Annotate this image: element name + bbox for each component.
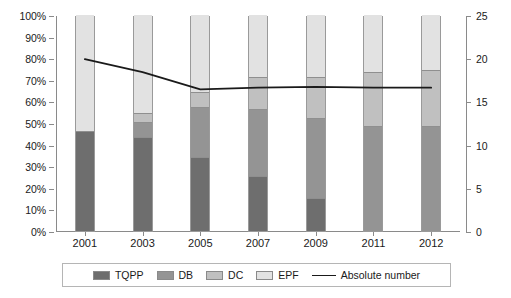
bar-segment-db[interactable] [134,123,152,138]
right-axis-tick-label: 15 [476,96,488,108]
legend-item-epf[interactable]: EPF [256,269,298,281]
bar-segment-db[interactable] [191,108,209,158]
bar-stack[interactable] [306,16,326,232]
bar-stack[interactable] [133,16,153,232]
bar-segment-dc[interactable] [134,114,152,123]
legend-swatch-icon [93,271,110,280]
left-axis-tick-mark [49,102,54,103]
bar-segment-db[interactable] [422,127,440,231]
right-axis-tick-mark [466,102,471,103]
left-axis-tick-label: 100% [20,10,46,22]
right-axis-tick-label: 10 [476,140,488,152]
left-axis-tick-mark [49,146,54,147]
right-axis-tick-mark [466,59,471,60]
bar-group[interactable] [75,16,95,232]
left-axis-tick-mark [49,167,54,168]
x-axis-tick-label: 2003 [130,237,154,249]
bar-segment-epf[interactable] [364,15,382,73]
bar-segment-epf[interactable] [76,15,94,132]
left-axis-tick-label: 20% [25,183,46,195]
x-axis-tick-label: 2007 [246,237,270,249]
bar-segment-dc[interactable] [307,78,325,119]
left-axis-tick-label: 80% [25,53,46,65]
right-axis-tick-mark [466,146,471,147]
bar-segment-tqpp[interactable] [134,138,152,231]
x-axis-tick-label: 2009 [303,237,327,249]
legend-item-absolute-number[interactable]: Absolute number [312,269,420,281]
legend-item-label: DC [228,269,243,281]
bar-group[interactable] [248,16,268,232]
x-axis-tick-mark [85,232,86,236]
left-axis-tick-label: 0% [31,226,46,238]
bar-segment-tqpp[interactable] [191,158,209,231]
x-axis-tick-mark [200,232,201,236]
bar-segment-epf[interactable] [422,15,440,71]
right-axis-tick-mark [466,16,471,17]
x-axis-tick-mark [258,232,259,236]
bar-stack[interactable] [248,16,268,232]
bar-segment-epf[interactable] [307,15,325,78]
bar-group[interactable] [133,16,153,232]
bar-group[interactable] [363,16,383,232]
bar-segment-dc[interactable] [191,93,209,108]
x-axis-tick-mark [373,232,374,236]
left-axis-tick-mark [49,189,54,190]
bar-segment-tqpp[interactable] [76,132,94,231]
bar-segment-db[interactable] [249,110,267,177]
legend-item-db[interactable]: DB [157,269,194,281]
x-axis-tick-mark [143,232,144,236]
bar-segment-epf[interactable] [249,15,267,78]
bar-segment-tqpp[interactable] [249,177,267,231]
x-axis-tick-label: 2011 [362,237,386,249]
left-axis-tick-label: 70% [25,75,46,87]
x-axis-tick-label: 2012 [419,237,443,249]
chart-legend: TQPPDBDCEPFAbsolute number [62,263,451,287]
left-axis-tick-mark [49,81,54,82]
left-axis-tick-label: 50% [25,118,46,130]
bar-stack[interactable] [75,16,95,232]
bar-segment-db[interactable] [307,119,325,199]
left-axis-tick-label: 10% [25,204,46,216]
left-axis-tick-mark [49,210,54,211]
right-axis-tick-mark [466,189,471,190]
legend-item-dc[interactable]: DC [206,269,243,281]
bar-stack[interactable] [363,16,383,232]
bar-segment-tqpp[interactable] [307,199,325,231]
legend-swatch-icon [157,271,174,280]
bar-segment-db[interactable] [364,127,382,231]
left-axis-tick-label: 30% [25,161,46,173]
bar-segment-epf[interactable] [134,15,152,114]
bar-segment-dc[interactable] [364,73,382,127]
left-axis-tick-mark [49,38,54,39]
left-axis-tick-mark [49,124,54,125]
left-axis-tick-label: 40% [25,140,46,152]
left-axis-tick-mark [49,16,54,17]
bar-group[interactable] [190,16,210,232]
bar-group[interactable] [421,16,441,232]
right-axis-tick-mark [466,232,471,233]
left-axis-tick-label: 60% [25,96,46,108]
left-axis: 0%10%20%30%40%50%60%70%80%90%100% [0,16,54,232]
right-axis-tick-label: 5 [476,183,482,195]
left-axis-tick-mark [49,232,54,233]
left-axis-tick-label: 90% [25,32,46,44]
legend-item-tqpp[interactable]: TQPP [93,269,144,281]
bar-stack[interactable] [421,16,441,232]
chart-container: 0%10%20%30%40%50%60%70%80%90%100% 051015… [0,0,511,298]
bar-segment-dc[interactable] [422,71,440,127]
right-axis-tick-label: 25 [476,10,488,22]
legend-swatch-icon [256,271,273,280]
x-axis-tick-label: 2005 [188,237,212,249]
right-axis: 0510152025 [466,16,511,232]
bar-stack[interactable] [190,16,210,232]
bar-segment-epf[interactable] [191,15,209,93]
right-axis-line [466,16,467,232]
bar-segment-dc[interactable] [249,78,267,110]
bar-group[interactable] [306,16,326,232]
left-axis-tick-mark [49,59,54,60]
x-axis: 2001200320052007200920112012 [56,234,460,254]
x-axis-tick-label: 2001 [73,237,97,249]
x-axis-tick-mark [316,232,317,236]
legend-line-marker-icon [312,275,336,276]
legend-item-label: Absolute number [341,269,420,281]
